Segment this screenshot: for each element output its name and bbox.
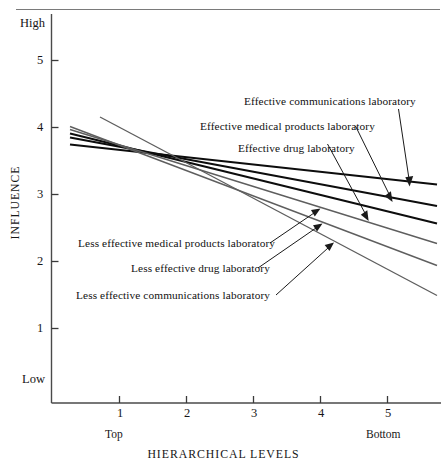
annotation-less-effective-medical-products: Less effective medical products laborato…	[78, 237, 275, 249]
y-axis-ticks	[52, 61, 59, 329]
annotation-effective-communications: Effective communications laboratory	[244, 95, 416, 107]
y-tick-label-1: 1	[30, 321, 50, 336]
annotation-less-effective-drug: Less effective drug laboratory	[131, 262, 270, 274]
y-axis-low-label: Low	[22, 372, 45, 387]
x-tick-label-3: 3	[244, 406, 264, 421]
annotation-effective-drug: Effective drug laboratory	[238, 142, 355, 154]
y-tick-label-5: 5	[30, 53, 50, 68]
x-tick-label-5: 5	[378, 406, 398, 421]
x-tick-label-1: 1	[110, 406, 130, 421]
x-axis-bottom-label: Bottom	[366, 428, 401, 440]
x-axis-top-label: Top	[105, 428, 123, 440]
x-tick-label-4: 4	[311, 406, 331, 421]
x-axis-title: HIERARCHICAL LEVELS	[0, 447, 447, 462]
arrowhead-less-effective-medical-products	[311, 209, 321, 217]
chart-canvas	[0, 0, 447, 469]
y-tick-label-2: 2	[30, 254, 50, 269]
y-axis-title: INFLUENCE	[9, 158, 22, 248]
x-tick-label-2: 2	[177, 406, 197, 421]
y-tick-label-3: 3	[30, 187, 50, 202]
annotation-less-effective-communications: Less effective communications laboratory	[76, 289, 270, 301]
x-axis-ticks	[120, 396, 388, 403]
y-tick-label-4: 4	[30, 120, 50, 135]
chart-figure: High Low 5 4 3 2 1 1 2 3 4 5 Top Bottom …	[0, 0, 447, 469]
annotation-effective-medical-products: Effective medical products laboratory	[200, 120, 375, 132]
y-axis-high-label: High	[20, 16, 45, 31]
